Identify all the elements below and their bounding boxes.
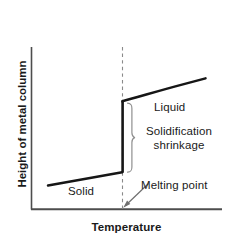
shrinkage-label-line-2: shrinkage [136, 139, 222, 153]
solid-branch-curve [48, 172, 122, 185]
solid-region-label: Solid [68, 185, 94, 199]
solidification-shrinkage-chart: Height of metal column Temperature Liqui… [0, 0, 230, 241]
liquid-region-label: Liquid [154, 101, 185, 115]
melting-point-label: Melting point [141, 179, 208, 193]
liquid-branch-curve [122, 78, 205, 101]
y-axis-label: Height of metal column [16, 44, 28, 204]
x-axis-label: Temperature [31, 221, 222, 235]
chart-canvas [0, 0, 230, 241]
shrinkage-brace [128, 103, 135, 172]
shrinkage-label-line-1: Solidification [146, 125, 212, 137]
solidification-shrinkage-label: Solidificationshrinkage [136, 125, 222, 152]
